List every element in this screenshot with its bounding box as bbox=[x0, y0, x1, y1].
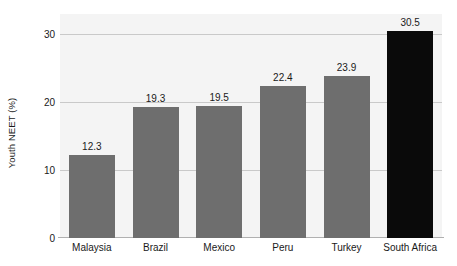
bar-value-label: 12.3 bbox=[82, 142, 101, 152]
bar-brazil[interactable] bbox=[133, 107, 179, 238]
bar-slot-turkey: 23.9 bbox=[315, 14, 379, 238]
x-label-turkey: Turkey bbox=[315, 242, 379, 253]
bar-slot-malaysia: 12.3 bbox=[60, 14, 124, 238]
x-axis-labels: MalaysiaBrazilMexicoPeruTurkeySouth Afri… bbox=[60, 242, 442, 262]
bar-value-label: 23.9 bbox=[337, 63, 356, 73]
bar-value-label: 22.4 bbox=[273, 73, 292, 83]
y-tick-label-0: 0 bbox=[3, 233, 55, 244]
bar-slot-mexico: 19.5 bbox=[187, 14, 251, 238]
y-tick-label-20: 20 bbox=[3, 97, 55, 108]
bar-value-label: 19.5 bbox=[209, 93, 228, 103]
bar-value-label: 30.5 bbox=[400, 18, 419, 28]
x-label-mexico: Mexico bbox=[187, 242, 251, 253]
bar-slot-brazil: 19.3 bbox=[124, 14, 188, 238]
x-label-brazil: Brazil bbox=[124, 242, 188, 253]
x-label-south-africa: South Africa bbox=[378, 242, 442, 253]
x-label-malaysia: Malaysia bbox=[60, 242, 124, 253]
y-tick-label-30: 30 bbox=[3, 29, 55, 40]
bar-slot-peru: 22.4 bbox=[251, 14, 315, 238]
bar-chart: Youth NEET (%) 0102030 12.319.319.522.42… bbox=[0, 0, 457, 266]
y-axis-ticks: 0102030 bbox=[0, 0, 55, 266]
bar-malaysia[interactable] bbox=[69, 155, 115, 238]
bar-south-africa[interactable] bbox=[387, 31, 433, 238]
bar-mexico[interactable] bbox=[196, 106, 242, 238]
y-tick-label-10: 10 bbox=[3, 165, 55, 176]
bar-peru[interactable] bbox=[260, 86, 306, 238]
x-label-peru: Peru bbox=[251, 242, 315, 253]
bars-container: 12.319.319.522.423.930.5 bbox=[60, 14, 442, 238]
bar-turkey[interactable] bbox=[324, 76, 370, 238]
bar-slot-south-africa: 30.5 bbox=[378, 14, 442, 238]
bar-value-label: 19.3 bbox=[146, 94, 165, 104]
